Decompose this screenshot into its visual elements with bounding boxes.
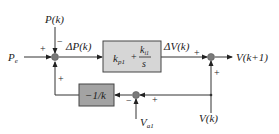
block-diagram: kp1 + ki1 s −1/k Pe P(k) ΔP(k) ΔV(k) V(k… xyxy=(0,0,279,134)
svg-text:s: s xyxy=(142,58,146,69)
delta-v-label: ΔV(k) xyxy=(163,40,190,53)
delta-p-label: ΔP(k) xyxy=(65,40,92,53)
pi-controller-block: kp1 + ki1 s xyxy=(103,41,161,72)
pe-label: Pe xyxy=(7,51,18,65)
svg-text:−1/k: −1/k xyxy=(85,89,107,101)
sign-bottom-vk: + xyxy=(152,94,158,105)
sign-vk: + xyxy=(214,67,220,78)
pk-label: P(k) xyxy=(44,13,64,26)
sign-pk: − xyxy=(57,36,63,47)
sign-va1: − xyxy=(126,95,132,106)
right-summing-junction xyxy=(208,54,215,61)
left-summing-junction xyxy=(52,54,59,61)
sign-pe: + xyxy=(40,43,46,54)
sign-left-feedback: + xyxy=(58,73,64,84)
gain-block: −1/k xyxy=(79,84,114,106)
va1-label: Va1 xyxy=(140,116,154,130)
branch-point xyxy=(210,94,213,97)
sign-dv: + xyxy=(194,47,200,58)
bottom-summing-junction xyxy=(133,92,140,99)
vk-label: V(k) xyxy=(199,112,218,125)
output-label: V(k+1) xyxy=(236,51,268,64)
svg-text:+: + xyxy=(131,51,137,62)
